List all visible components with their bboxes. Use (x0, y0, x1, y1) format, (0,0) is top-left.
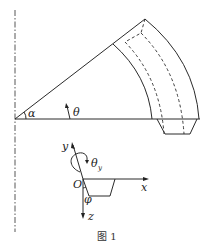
y-axis-label: y (61, 140, 69, 153)
x-axis-label: x (141, 181, 148, 194)
figure-caption: 图 1 (97, 231, 117, 242)
alpha-arc (24, 112, 26, 119)
diagram-canvas: α θ y θ y x z O φ 图 1 (0, 0, 208, 248)
theta-y-subscript: y (97, 164, 103, 172)
hidden-corner-edges (125, 19, 145, 42)
y-axis-line (73, 145, 83, 179)
inner-arc (113, 44, 152, 119)
origin-label: O (73, 178, 82, 191)
z-axis-label: z (87, 210, 94, 223)
phi-label: φ (84, 193, 92, 206)
z-axis-arrowhead (81, 213, 85, 219)
theta-label: θ (73, 106, 80, 119)
theta-y-label: θ (91, 157, 98, 170)
theta-y-arrowhead (85, 160, 89, 164)
theta-arrow-head (65, 103, 69, 108)
sector-upper-line (15, 19, 145, 119)
outer-arc (145, 19, 199, 119)
alpha-label: α (28, 107, 36, 120)
y-axis-arrowhead (71, 142, 75, 149)
theta-y-rotation-arc (71, 153, 87, 172)
